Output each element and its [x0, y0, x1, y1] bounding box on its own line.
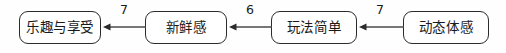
edge-weight-label: 7	[120, 4, 128, 17]
node-box-novelty[interactable]: 新鲜感	[145, 11, 227, 44]
flow-diagram: 乐趣与享受 新鲜感 玩法简单 动态体感 7 6 7	[0, 0, 506, 53]
node-label: 新鲜感	[166, 21, 207, 35]
edge-weight-label: 6	[246, 4, 254, 17]
node-box-motion-sensing[interactable]: 动态体感	[403, 11, 489, 44]
node-label: 玩法简单	[287, 21, 341, 35]
node-label: 乐趣与享受	[26, 21, 94, 35]
node-box-pleasure-enjoyment[interactable]: 乐趣与享受	[19, 11, 101, 44]
node-box-simple-gameplay[interactable]: 玩法简单	[271, 11, 357, 44]
edge-weight-label: 7	[376, 4, 384, 17]
node-label: 动态体感	[419, 21, 473, 35]
